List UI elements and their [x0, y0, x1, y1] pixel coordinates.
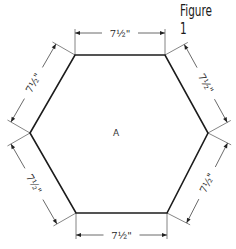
- center-label: A: [113, 128, 120, 138]
- arrowhead-icon: [184, 44, 188, 49]
- side-label-upper-right: 7½": [196, 72, 216, 95]
- arrowhead-icon: [11, 144, 15, 149]
- side-label-lower-left: 7½": [24, 172, 44, 195]
- side-label-upper-left: 7½": [24, 71, 44, 94]
- arrowhead-icon: [224, 143, 228, 148]
- extension-line: [167, 213, 190, 225]
- arrowhead-icon: [75, 31, 80, 35]
- hexagon-diagram: 7½"7½"7½"7½"7½"7½" A: [0, 0, 236, 249]
- extension-line: [7, 120, 30, 133]
- side-label-lower-right: 7½": [197, 171, 216, 194]
- arrowhead-icon: [187, 218, 191, 223]
- arrowhead-icon: [52, 44, 56, 49]
- arrowhead-icon: [53, 219, 57, 224]
- arrowhead-icon: [223, 117, 227, 122]
- arrowhead-icon: [76, 233, 81, 237]
- side-label-bottom: 7½": [111, 230, 132, 241]
- extension-line: [165, 42, 188, 55]
- extension-line: [52, 42, 75, 55]
- arrowhead-icon: [11, 117, 15, 122]
- side-label-top: 7½": [110, 28, 131, 39]
- arrowhead-icon: [162, 233, 167, 237]
- extension-line: [53, 213, 76, 226]
- arrowhead-icon: [160, 31, 165, 35]
